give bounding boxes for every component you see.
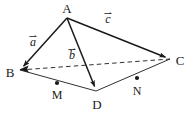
point-marker-n xyxy=(135,76,139,80)
vector-label-c: ⇀ c xyxy=(105,10,110,25)
vector-arrow-glyph-a: ⇀ xyxy=(29,32,37,42)
vector-c-line xyxy=(67,18,166,57)
vector-arrow-glyph-c: ⇀ xyxy=(104,9,112,19)
point-label-m: M xyxy=(52,89,63,101)
point-marker-m xyxy=(55,81,59,85)
vector-label-a: ⇀ a xyxy=(30,33,36,48)
point-label-n: N xyxy=(133,85,142,97)
vector-label-b: ⇀ b xyxy=(69,46,75,61)
geometry-figure: A B C D M N ⇀ a ⇀ b ⇀ c xyxy=(0,0,194,115)
vertex-label-a: A xyxy=(62,2,71,15)
vertex-label-b: B xyxy=(6,66,15,79)
vector-arrow-glyph-b: ⇀ xyxy=(68,45,76,55)
vertex-label-c: C xyxy=(176,54,185,67)
vertex-label-d: D xyxy=(92,98,101,111)
